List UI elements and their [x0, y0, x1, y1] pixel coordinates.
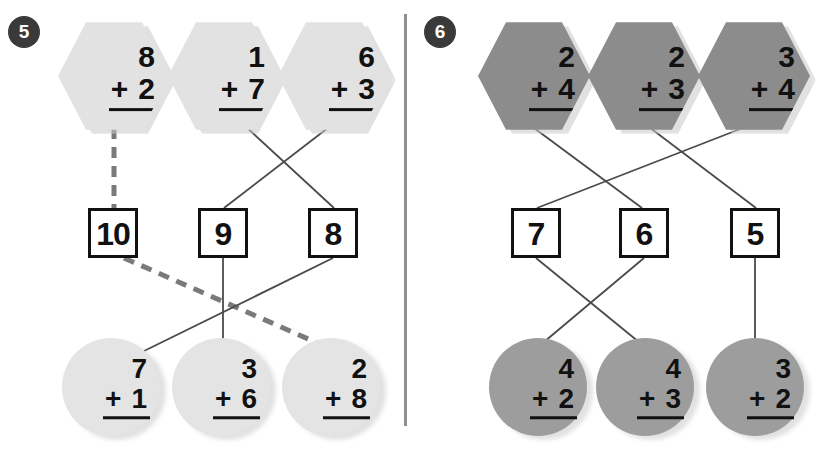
link-hex6-to-answer7 [537, 124, 753, 208]
addition-expression: 8 +2 [109, 41, 158, 111]
addition-expression: 3 +6 [213, 354, 260, 419]
circle-problem5-3[interactable]: 2 +8 [282, 338, 380, 436]
addend-bottom: +8 [323, 385, 370, 420]
answer-box-problem6-1[interactable]: 7 [511, 208, 561, 258]
answer-box-problem6-2[interactable]: 6 [619, 208, 669, 258]
circle-problem6-1[interactable]: 4 +2 [489, 338, 587, 436]
addition-expression: 3 +4 [749, 41, 798, 111]
addition-expression: 1 +7 [219, 41, 268, 111]
answer-box-problem5-2[interactable]: 9 [198, 208, 248, 258]
addend-top: 2 [323, 354, 370, 384]
addend-top: 6 [329, 41, 378, 73]
addend-top: 3 [213, 354, 260, 384]
addend-bottom: +1 [103, 385, 150, 420]
addend-top: 4 [637, 354, 684, 384]
addition-expression: 6 +3 [329, 41, 378, 111]
addition-expression: 3 +2 [747, 354, 794, 419]
addend-bottom: +3 [639, 74, 688, 111]
link-hex4-to-answer6 [534, 128, 642, 208]
addition-expression: 2 +8 [323, 354, 370, 419]
addition-expression: 2 +3 [639, 41, 688, 111]
addend-top: 8 [109, 41, 158, 73]
link-answer8-to-circle7plus1 [144, 258, 333, 351]
addition-expression: 4 +3 [637, 354, 684, 419]
addend-bottom: +4 [749, 74, 798, 111]
panel-divider [404, 14, 407, 426]
circle-problem6-3[interactable]: 3 +2 [706, 338, 804, 436]
addend-top: 7 [103, 354, 150, 384]
link-hex2-to-answer8 [243, 124, 334, 208]
addend-bottom: +2 [530, 385, 577, 420]
link-answer7-to-circle4plus3 [536, 258, 645, 347]
link-answer10-to-circle2plus8 [124, 258, 322, 345]
addend-top: 3 [747, 354, 794, 384]
addend-bottom: +2 [109, 74, 158, 111]
addend-bottom: +4 [529, 74, 578, 111]
worksheet-page: 5 8 +2 1 +7 6 +3 [0, 0, 818, 453]
addend-top: 4 [530, 354, 577, 384]
circle-problem5-2[interactable]: 3 +6 [172, 338, 270, 436]
answer-box-problem6-3[interactable]: 5 [730, 208, 780, 258]
addend-bottom: +6 [213, 385, 260, 420]
addend-top: 3 [749, 41, 798, 73]
link-hex3-to-answer9 [224, 124, 333, 208]
link-answer6-to-circle4plus2 [538, 258, 644, 347]
addition-expression: 4 +2 [530, 354, 577, 419]
problem-number-badge-6: 6 [424, 16, 456, 48]
addend-bottom: +2 [747, 385, 794, 420]
answer-box-problem5-3[interactable]: 8 [308, 208, 358, 258]
addition-expression: 7 +1 [103, 354, 150, 419]
problem-number-badge-5: 5 [8, 16, 40, 48]
circle-problem5-1[interactable]: 7 +1 [62, 338, 160, 436]
addend-top: 1 [219, 41, 268, 73]
addend-bottom: +7 [219, 74, 268, 111]
addend-bottom: +3 [329, 74, 378, 111]
circle-problem6-2[interactable]: 4 +3 [596, 338, 694, 436]
answer-box-problem5-1[interactable]: 10 [88, 208, 138, 258]
addend-top: 2 [529, 41, 578, 73]
addend-bottom: +3 [637, 385, 684, 420]
link-hex5-to-answer5 [645, 124, 756, 208]
addend-top: 2 [639, 41, 688, 73]
addition-expression: 2 +4 [529, 41, 578, 111]
